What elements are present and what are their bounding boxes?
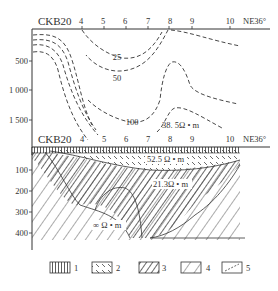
legend-item-1: 1 xyxy=(50,262,78,273)
top-station-5: 5 xyxy=(101,16,105,26)
legend-item-2: 2 xyxy=(92,262,120,273)
bottom-section: CKB20 4 5 6 7 8 9 10 NE36° xyxy=(15,133,270,250)
bottom-depth-100: 100 xyxy=(15,165,28,175)
middle-layer-label: 21.3Ω • m xyxy=(153,179,188,189)
svg-text:4: 4 xyxy=(206,263,211,273)
legend: 1 2 3 4 5 xyxy=(50,262,250,273)
top-direction: NE36° xyxy=(243,16,266,26)
top-depth-1500: 1 500 xyxy=(9,115,28,125)
top-station-4: 4 xyxy=(79,16,84,26)
bottom-profile-name: CKB20 xyxy=(38,133,72,145)
bottom-station-7: 7 xyxy=(146,134,150,144)
contour-label-100: 100 xyxy=(126,117,139,127)
top-profile-name: CKB20 xyxy=(38,15,72,27)
svg-text:5: 5 xyxy=(246,263,250,273)
top-station-10: 10 xyxy=(226,16,235,26)
bottom-depth-200: 200 xyxy=(15,186,28,196)
contour-label-25: 25 xyxy=(113,52,122,62)
top-resistivity-label: 38. 5Ω • m xyxy=(162,120,200,130)
surface-layer-label: 52.5 Ω • m xyxy=(147,154,185,164)
top-depth-500: 500 xyxy=(15,56,28,66)
geologic-diagram: CKB20 4 5 6 7 8 9 10 NE36° xyxy=(0,0,278,291)
svg-text:1: 1 xyxy=(74,263,78,273)
top-station-7: 7 xyxy=(146,16,150,26)
top-station-9: 9 xyxy=(190,16,194,26)
top-depth-1000: 1 000 xyxy=(9,85,28,95)
bottom-depth-300: 300 xyxy=(15,207,28,217)
bottom-direction: NE36° xyxy=(243,134,266,144)
legend-item-4: 4 xyxy=(181,262,211,273)
svg-text:2: 2 xyxy=(116,263,120,273)
bottom-depth-400: 400 xyxy=(15,228,28,238)
bottom-station-10: 10 xyxy=(226,134,235,144)
svg-text:3: 3 xyxy=(162,263,166,273)
top-station-6: 6 xyxy=(123,16,127,26)
bottom-station-5: 5 xyxy=(102,134,106,144)
top-station-8: 8 xyxy=(168,16,172,26)
legend-item-5: 5 xyxy=(222,262,250,273)
bottom-station-8: 8 xyxy=(168,134,172,144)
legend-item-3: 3 xyxy=(139,262,166,273)
contour-label-50: 50 xyxy=(113,73,122,83)
bottom-station-9: 9 xyxy=(190,134,194,144)
basement-layer-label: ∞ Ω • m xyxy=(93,220,122,230)
bottom-station-6: 6 xyxy=(124,134,128,144)
